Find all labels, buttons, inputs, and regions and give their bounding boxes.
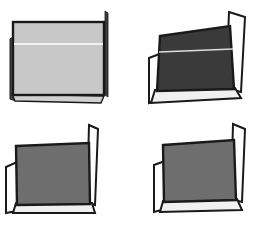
back-panel	[16, 143, 90, 205]
shape-panel-bottom-left	[0, 113, 128, 226]
back-panel	[157, 26, 234, 91]
shape-panel-top-left	[0, 0, 128, 113]
back-panel	[13, 22, 104, 95]
right-flap	[105, 11, 108, 97]
figure-canvas	[0, 0, 257, 226]
shape-panel-top-right	[129, 0, 257, 113]
back-panel	[163, 140, 236, 202]
shape-panel-bottom-right	[129, 113, 257, 226]
